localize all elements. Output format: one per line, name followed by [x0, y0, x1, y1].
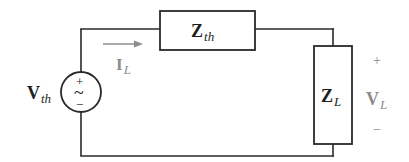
load-impedance-subscript: L: [334, 94, 341, 109]
source-voltage-symbol: V: [27, 83, 40, 103]
load-voltage-minus-sign: −: [373, 123, 381, 137]
thevenin-circuit-diagram: + ~ − Vth Zth ZL IL + VL −: [0, 0, 409, 162]
load-current-symbol: I: [116, 55, 123, 74]
source-voltage-subscript: th: [41, 91, 51, 106]
thevenin-impedance-subscript: th: [204, 29, 214, 44]
load-impedance-symbol: Z: [321, 86, 333, 106]
source-voltage-label: Vth: [27, 84, 51, 102]
thevenin-impedance-symbol: Z: [191, 21, 203, 41]
source-minus-sign: −: [76, 98, 83, 111]
load-impedance-label: ZL: [321, 87, 341, 105]
thevenin-impedance-label: Zth: [191, 22, 214, 40]
load-voltage-symbol: V: [366, 89, 379, 109]
current-arrow-icon: [103, 41, 143, 48]
load-current-subscript: L: [124, 62, 131, 77]
load-voltage-label: VL: [366, 90, 387, 108]
load-voltage-subscript: L: [380, 97, 387, 112]
load-current-label: IL: [116, 56, 131, 73]
load-voltage-plus-sign: +: [373, 54, 381, 68]
